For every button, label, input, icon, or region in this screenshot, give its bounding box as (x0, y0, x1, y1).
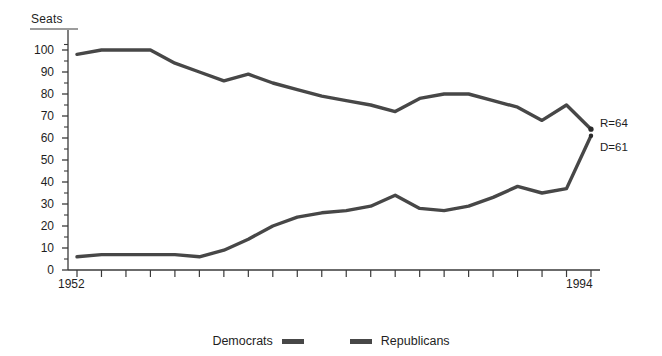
series-line-republicans (77, 50, 591, 129)
legend-item-republicans: Republicans (350, 334, 450, 348)
series-line-democrats (77, 136, 591, 257)
legend-item-democrats: Democrats (212, 334, 303, 348)
x-axis-start-label: 1952 (58, 278, 85, 290)
x-axis-ticks (77, 270, 591, 277)
y-tick-label-80: 80 (24, 88, 54, 100)
chart-legend: Democrats Republicans (0, 330, 662, 352)
y-tick-label-0: 0 (24, 264, 54, 276)
democrat-endpoint-label: D=61 (600, 141, 628, 153)
plot-area (0, 0, 662, 356)
y-tick-label-50: 50 (24, 154, 54, 166)
y-tick-label-20: 20 (24, 220, 54, 232)
x-axis-end-label: 1994 (566, 278, 593, 290)
legend-swatch-republicans (350, 339, 372, 344)
y-tick-label-10: 10 (24, 242, 54, 254)
y-tick-label-30: 30 (24, 198, 54, 210)
republican-endpoint-label: R=64 (600, 117, 628, 129)
legend-label-republicans: Republicans (381, 334, 450, 348)
y-tick-label-100: 100 (24, 44, 54, 56)
legend-label-democrats: Democrats (212, 334, 272, 348)
y-tick-label-70: 70 (24, 110, 54, 122)
legend-swatch-democrats (282, 339, 304, 344)
y-tick-label-60: 60 (24, 132, 54, 144)
y-tick-label-90: 90 (24, 66, 54, 78)
endpoint-markers (588, 127, 593, 138)
line-chart: Seats 1009080706050403020100 1952 1994 R… (0, 0, 662, 356)
y-tick-label-40: 40 (24, 176, 54, 188)
